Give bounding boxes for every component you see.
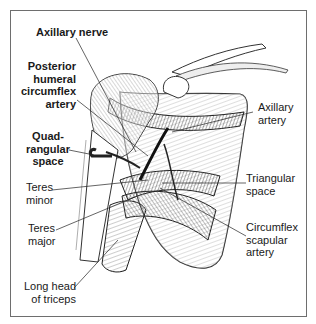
clavicle [172, 44, 288, 80]
label-line: scapular [246, 234, 298, 247]
label-line: artery [246, 246, 298, 259]
label-line: of triceps [22, 293, 76, 306]
label-axillary-artery: Axillary artery [258, 101, 293, 126]
label-teres-major: Teres major [28, 222, 56, 247]
label-line: artery [18, 98, 76, 111]
label-line: Circumflex [246, 221, 298, 234]
label-circumflex-scapular-artery: Circumflex scapular artery [246, 221, 298, 259]
label-triangular-space: Triangular space [246, 172, 295, 197]
label-line: space [246, 185, 295, 198]
label-line: Axillary [258, 101, 293, 114]
label-long-head-of-triceps: Long head of triceps [22, 280, 76, 305]
label-quadrangular-space: Quad- rangular space [22, 130, 74, 168]
label-line: minor [26, 194, 54, 207]
label-line: rangular [22, 143, 74, 156]
label-line: humeral [18, 73, 76, 86]
label-line: Posterior [18, 60, 76, 73]
label-line: Long head [22, 280, 76, 293]
label-line: Triangular [246, 172, 295, 185]
label-line: Teres [26, 181, 54, 194]
label-posterior-humeral-circumflex-artery: Posterior humeral circumflex artery [18, 60, 76, 110]
label-line: artery [258, 114, 293, 127]
label-teres-minor: Teres minor [26, 181, 54, 206]
label-line: Teres [28, 222, 56, 235]
label-line: circumflex [18, 85, 76, 98]
label-axillary-nerve: Axillary nerve [36, 26, 108, 39]
label-line: major [28, 235, 56, 248]
label-line: Quad- [22, 130, 74, 143]
label-line: space [22, 155, 74, 168]
